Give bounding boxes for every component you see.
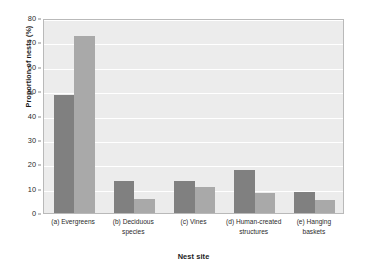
y-tick-mark	[38, 140, 41, 141]
y-tick-label: 80	[6, 15, 36, 22]
bar	[294, 192, 315, 213]
y-tick-label: 30	[6, 137, 36, 144]
x-tick-label: (b) Deciduousspecies	[103, 217, 163, 236]
bar-series-container	[44, 20, 343, 213]
bar	[195, 187, 216, 213]
plot-area	[43, 19, 344, 214]
y-tick-mark	[38, 189, 41, 190]
bar	[234, 170, 255, 213]
x-tick-label-line: (e) Hanging	[284, 217, 344, 227]
x-tick-label: (d) Human-createdstructures	[224, 217, 284, 236]
x-tick-label-line: structures	[224, 227, 284, 237]
y-tick-label: 10	[6, 186, 36, 193]
x-axis-title: Nest site	[43, 252, 344, 261]
x-tick-label: (e) Hangingbaskets	[284, 217, 344, 236]
y-tick-label: 40	[6, 113, 36, 120]
x-tick-label-line: (c) Vines	[163, 217, 223, 227]
y-tick-mark	[38, 214, 41, 215]
x-tick-label-line: (a) Evergreens	[43, 217, 103, 227]
y-tick-mark	[38, 116, 41, 117]
bar	[174, 181, 195, 213]
x-tick-label-line: species	[103, 227, 163, 237]
y-tick-label: 20	[6, 162, 36, 169]
bar	[74, 36, 95, 213]
y-tick-label: 60	[6, 64, 36, 71]
x-axis-tick-labels: (a) Evergreens(b) Deciduousspecies(c) Vi…	[43, 217, 344, 251]
y-axis-tick-labels: 01020304050607080	[0, 0, 44, 269]
bar	[255, 193, 276, 213]
y-tick-mark	[38, 165, 41, 166]
y-tick-mark	[38, 67, 41, 68]
y-tick-mark	[38, 43, 41, 44]
x-tick-label: (c) Vines	[163, 217, 223, 227]
x-tick-label-line: (d) Human-created	[224, 217, 284, 227]
y-tick-label: 0	[6, 210, 36, 217]
bar	[114, 181, 135, 213]
x-tick-label-line: baskets	[284, 227, 344, 237]
bar	[134, 199, 155, 213]
x-tick-label: (a) Evergreens	[43, 217, 103, 227]
bar	[315, 200, 336, 213]
y-tick-mark	[38, 19, 41, 20]
bar-chart-figure: Proportion of nests (%) 0102030405060708…	[0, 0, 368, 269]
y-tick-label: 70	[6, 40, 36, 47]
bar	[54, 95, 75, 214]
x-tick-label-line: (b) Deciduous	[103, 217, 163, 227]
y-tick-label: 50	[6, 88, 36, 95]
y-tick-mark	[38, 92, 41, 93]
